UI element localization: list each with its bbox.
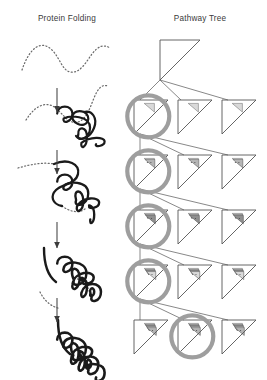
node-shaded-cell: [146, 216, 156, 224]
node-speckle: [237, 330, 238, 331]
backbone-stroke: [58, 320, 70, 354]
pathway-tree-diagram: [127, 40, 256, 357]
protein-stage-partial-coil: [26, 86, 108, 147]
tree-node-l2-i2[interactable]: [222, 155, 256, 189]
node-speckle: [195, 274, 196, 275]
backbone-stroke: [72, 111, 95, 139]
tree-node-l4-i2[interactable]: [222, 265, 256, 299]
node-shaded-cell: [144, 103, 154, 112]
node-shaded-cell: [232, 103, 242, 112]
tree-node-l5-i0[interactable]: [134, 320, 168, 354]
figure-svg: [0, 0, 267, 380]
tree-node-l1-i2[interactable]: [222, 100, 256, 134]
protein-stage-native-state: [57, 320, 104, 380]
folded-coil: [57, 333, 104, 380]
tree-node-l4-i1[interactable]: [178, 265, 212, 299]
tree-node-l1-i1[interactable]: [178, 100, 212, 134]
node-shaded-cell: [189, 159, 199, 167]
node-shaded-cell: [234, 216, 244, 224]
node-speckle: [193, 330, 194, 331]
node-speckle: [239, 218, 240, 219]
node-shaded-cell: [233, 159, 243, 167]
node-triangle-outline: [160, 40, 200, 80]
node-speckle: [151, 274, 152, 275]
node-shaded-cell: [145, 159, 155, 167]
protein-stage-loose-fold: [18, 162, 99, 223]
node-speckle: [239, 274, 240, 275]
node-shaded-cell: [147, 328, 156, 336]
node-speckle: [195, 218, 196, 219]
protein-stage-extended-chain: [22, 45, 110, 72]
node-speckle: [152, 330, 153, 331]
node-speckle: [235, 218, 236, 219]
node-speckle: [194, 162, 195, 163]
node-speckle: [196, 330, 197, 331]
tree-node-l5-i2[interactable]: [222, 320, 256, 354]
node-speckle: [238, 162, 239, 163]
node-speckle: [191, 218, 192, 219]
folded-coil: [57, 257, 101, 301]
node-speckle: [147, 162, 148, 163]
node-speckle: [192, 274, 193, 275]
figure-canvas: Protein Folding Pathway Tree: [0, 0, 267, 380]
node-speckle: [148, 274, 149, 275]
node-shaded-cell: [188, 103, 198, 112]
tree-node-l3-i2[interactable]: [222, 210, 256, 244]
node-speckle: [150, 162, 151, 163]
tree-node-l2-i1[interactable]: [178, 155, 212, 189]
tree-node-l3-i1[interactable]: [178, 210, 212, 244]
tree-node-root[interactable]: [160, 40, 200, 80]
node-shaded-cell: [235, 328, 244, 336]
folded-coil: [57, 107, 104, 147]
backbone-stroke: [44, 248, 56, 282]
node-shaded-cell: [191, 328, 200, 336]
node-speckle: [149, 330, 150, 331]
node-shaded-cell: [190, 216, 200, 224]
protein-stage-compact-fold: [40, 248, 101, 308]
node-speckle: [236, 274, 237, 275]
node-speckle: [151, 218, 152, 219]
node-speckle: [147, 218, 148, 219]
unfolded-chain-segment: [22, 45, 110, 72]
protein-folding-diagram: [18, 45, 110, 380]
node-speckle: [235, 162, 236, 163]
node-speckle: [191, 162, 192, 163]
node-speckle: [240, 330, 241, 331]
folded-coil: [57, 175, 99, 223]
